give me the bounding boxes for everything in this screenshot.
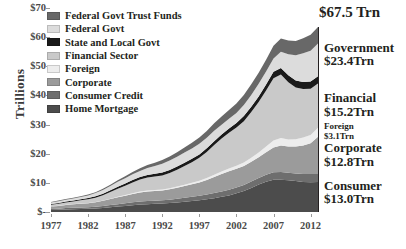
y-axis-tick-mark [46,125,50,126]
y-axis-tick-mark [46,154,50,155]
y-axis-tick-label: $70 [0,3,46,13]
x-axis-tick-label: 2007 [254,220,294,231]
legend-item: Financial Sector [47,49,207,62]
annotation-group-value: $15.2Trn [324,105,376,119]
legend: Federal Govt Trust FundsFederal GovtStat… [47,9,207,115]
x-axis-tick-mark [311,214,312,217]
y-axis-tick-label: $50 [0,61,46,71]
legend-swatch-icon [47,25,60,33]
x-axis-tick-mark [88,214,89,217]
legend-item-label: Federal Govt [65,23,124,34]
x-axis-tick-label: 1997 [179,220,219,231]
y-axis-tick-label: $10 [0,178,46,188]
legend-item-label: State and Local Govt [65,37,160,48]
legend-item-label: Home Mortgage [65,103,138,114]
annotation-bracket [318,174,319,212]
y-axis-tick-label: $30 [0,120,46,130]
x-axis-tick-label: 2002 [216,220,256,231]
y-axis-tick-label: $40 [0,90,46,100]
legend-item-label: Financial Sector [65,50,138,61]
x-axis-tick-mark [125,214,126,217]
annotation-group: Consumer$13.0Trn [324,179,382,207]
x-axis-tick-mark [51,214,52,217]
y-axis-tick-label: $60 [0,32,46,42]
y-axis: $-$10$20$30$40$50$60$70 [0,0,46,249]
legend-item: Federal Govt Trust Funds [47,9,207,22]
annotation-group: Government$23.4Trn [324,41,394,69]
legend-swatch-icon [47,78,60,86]
x-axis-tick-label: 1977 [31,220,71,231]
legend-swatch-icon [47,65,60,73]
annotation-group-name: Corporate [324,141,382,155]
annotation-bracket [318,83,319,127]
annotation-panel: $67.5 Trn Government$23.4TrnFinancial$15… [318,0,406,249]
legend-item: Corporate [47,75,207,88]
annotation-group: Financial$15.2Trn [324,91,376,119]
annotation-group-name: Consumer [324,179,382,193]
x-axis-tick-mark [236,214,237,217]
annotation-group-name: Financial [324,91,376,105]
legend-item-label: Foreign [65,63,100,74]
annotation-group-name: Government [324,41,394,55]
legend-swatch-icon [47,105,60,113]
total-value-label: $67.5 Trn [319,4,380,21]
y-axis-tick-label: $- [0,207,46,217]
x-axis-tick-label: 1987 [105,220,145,231]
legend-swatch-icon [47,91,60,99]
legend-item-label: Federal Govt Trust Funds [65,10,182,21]
annotation-group: Corporate$12.8Trn [324,141,382,169]
legend-item: Home Mortgage [47,102,207,115]
annotation-bracket [318,128,319,137]
y-axis-tick-label: $20 [0,149,46,159]
x-axis-tick-mark [199,214,200,217]
x-axis-tick-mark [162,214,163,217]
legend-item: Consumer Credit [47,89,207,102]
annotation-group-value: $13.0Trn [324,192,382,206]
annotation-group-value: $23.4Trn [324,54,394,68]
legend-swatch-icon [47,12,60,20]
x-axis-tick-label: 1992 [142,220,182,231]
annotation-bracket [318,27,319,84]
y-axis-tick-mark [46,183,50,184]
annotation-group: Foreign$3.1Trn [324,122,354,141]
x-axis: 19771982198719921997200220072012 [51,214,318,234]
y-axis-tick-mark [46,212,50,213]
legend-item: State and Local Govt [47,36,207,49]
legend-swatch-icon [47,38,60,46]
x-axis-tick-mark [274,214,275,217]
legend-item-label: Corporate [65,77,112,88]
legend-item: Foreign [47,62,207,75]
legend-item: Federal Govt [47,22,207,35]
legend-swatch-icon [47,52,60,60]
legend-item-label: Consumer Credit [65,90,143,101]
annotation-bracket [318,137,319,174]
debt-by-sector-area-chart: Trillions $-$10$20$30$40$50$60$70 197719… [0,0,406,249]
x-axis-tick-label: 1982 [68,220,108,231]
annotation-group-value: $12.8Trn [324,155,382,169]
